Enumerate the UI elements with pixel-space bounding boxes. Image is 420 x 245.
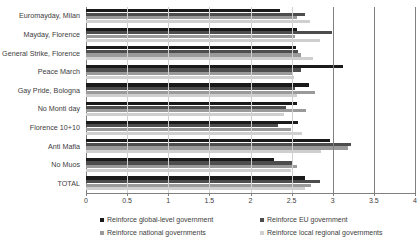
gridline — [127, 7, 128, 193]
gridline — [251, 7, 252, 193]
x-tick — [168, 193, 169, 196]
legend-label: Reinforce national governments — [107, 229, 206, 236]
x-tick — [415, 193, 416, 196]
legend-item[interactable]: Reinforce EU government — [260, 216, 348, 223]
bar — [86, 187, 305, 190]
category-label: General Strike, Florence — [2, 50, 80, 57]
x-tick — [251, 193, 252, 196]
bar — [86, 39, 320, 42]
bar — [86, 180, 320, 183]
x-tick-label: 0 — [84, 197, 88, 204]
x-tick-label: 3.5 — [369, 197, 379, 204]
legend-item[interactable]: Reinforce global-level government — [100, 216, 213, 223]
gridline — [168, 7, 169, 193]
x-tick-label: 4 — [413, 197, 417, 204]
category-label: Mayday, Florence — [23, 31, 80, 38]
x-tick-label: 1.5 — [205, 197, 215, 204]
bar — [86, 13, 305, 16]
x-tick-label: 1 — [166, 197, 170, 204]
bar — [86, 113, 284, 116]
category-label: Euromayday, Milan — [19, 12, 80, 19]
bar — [86, 57, 313, 60]
legend-swatch-icon — [260, 231, 264, 235]
category-label: Anti Mafia — [48, 143, 80, 150]
x-tick — [374, 193, 375, 196]
x-tick — [292, 193, 293, 196]
gridline — [333, 7, 334, 193]
bar — [86, 169, 291, 172]
bar — [86, 50, 298, 53]
gridline — [415, 7, 416, 193]
gridline — [374, 7, 375, 193]
chart-legend: Reinforce global-level governmentReinfor… — [100, 216, 420, 244]
gridline — [292, 7, 293, 193]
x-tick-label: 2.5 — [287, 197, 297, 204]
category-label: TOTAL — [58, 180, 81, 187]
category-label: Florence 10+10 — [30, 124, 80, 131]
category-label: Gay Pride, Bologna — [18, 87, 80, 94]
bar — [86, 68, 301, 71]
bar — [86, 76, 294, 79]
x-tick-label: 3 — [331, 197, 335, 204]
bar — [86, 106, 286, 109]
legend-swatch-icon — [260, 218, 264, 222]
category-label: No Muos — [51, 161, 80, 168]
gridline — [209, 7, 210, 193]
x-tick — [209, 193, 210, 196]
x-tick-label: 2 — [249, 197, 253, 204]
x-tick — [333, 193, 334, 196]
category-label: No Monti day — [38, 105, 80, 112]
legend-label: Reinforce local regional governments — [267, 229, 383, 236]
bar — [86, 132, 302, 135]
legend-label: Reinforce EU government — [267, 216, 348, 223]
bar — [86, 94, 297, 97]
bar — [86, 150, 321, 153]
legend-item[interactable]: Reinforce national governments — [100, 229, 206, 236]
legend-item[interactable]: Reinforce local regional governments — [260, 229, 383, 236]
legend-label: Reinforce global-level government — [107, 216, 213, 223]
legend-swatch-icon — [100, 231, 104, 235]
bar — [86, 87, 295, 90]
category-label: Peace March — [38, 68, 80, 75]
bar — [86, 20, 310, 23]
legend-swatch-icon — [100, 218, 104, 222]
x-tick-label: 0.5 — [122, 197, 132, 204]
x-tick — [127, 193, 128, 196]
category-axis: Euromayday, MilanMayday, FlorenceGeneral… — [0, 7, 84, 193]
bar — [86, 143, 351, 146]
x-tick — [86, 193, 87, 196]
bar-chart: Euromayday, MilanMayday, FlorenceGeneral… — [0, 0, 420, 245]
bar — [86, 161, 292, 164]
